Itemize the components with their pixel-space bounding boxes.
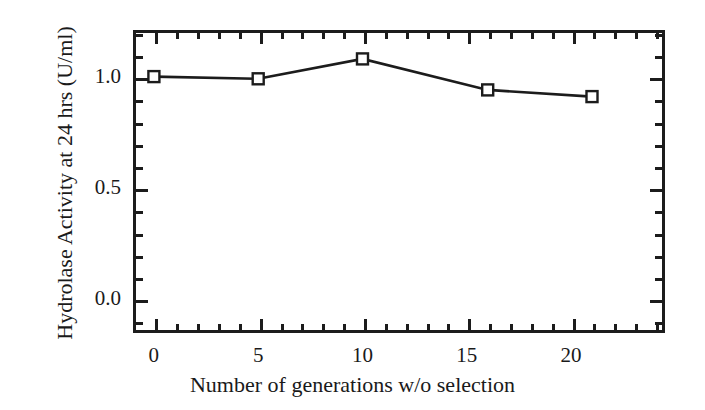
series-line [154,59,592,97]
series-hydrolase-activity [148,53,597,102]
x-axis-tick-label: 20 [541,345,601,366]
data-point-marker [148,71,159,82]
x-axis-tick-label: 10 [332,345,392,366]
data-point-marker [357,53,368,64]
x-axis-tick-label: 5 [228,345,288,366]
chart-figure: Hydrolase Activity at 24 hrs (U/ml) Numb… [0,0,705,410]
data-point-marker [253,73,264,84]
y-axis-tick-label: 0.5 [61,177,121,198]
data-point-marker [587,91,598,102]
y-axis-tick-label: 1.0 [61,66,121,87]
x-axis-title: Number of generations w/o selection [0,372,705,398]
y-axis-tick-label: 0.0 [61,288,121,309]
data-point-marker [482,84,493,95]
x-axis-tick-label: 15 [437,345,497,366]
x-axis-tick-label: 0 [124,345,184,366]
